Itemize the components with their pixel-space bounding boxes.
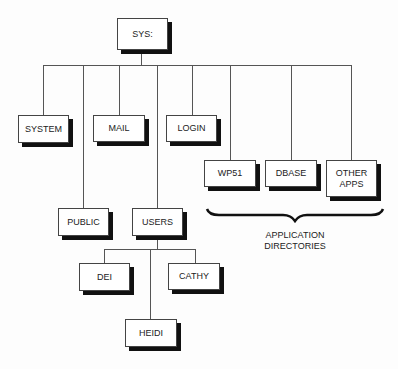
node-users: USERS: [132, 208, 183, 236]
node-login: LOGIN: [166, 115, 217, 142]
directory-tree-diagram: SYS: SYSTEM MAIL LOGIN WP51 DBASE OTHER …: [0, 0, 398, 369]
top-bus: [43, 65, 352, 66]
drop-dbase: [291, 65, 292, 161]
node-mail: MAIL: [93, 115, 145, 142]
root-connector: [141, 53, 142, 65]
node-heidi: HEIDI: [125, 319, 177, 347]
application-directories-label: APPLICATION DIRECTORIES: [240, 230, 350, 252]
drop-cathy: [195, 249, 196, 263]
node-system: SYSTEM: [18, 115, 69, 143]
application-directories-brace: [205, 207, 385, 223]
drop-other-apps: [351, 65, 352, 161]
node-other-apps: OTHER APPS: [326, 160, 377, 197]
drop-wp51: [230, 65, 231, 161]
node-dei: DEI: [79, 263, 130, 291]
node-public: PUBLIC: [58, 208, 109, 236]
node-cathy: CATHY: [168, 263, 220, 290]
drop-users: [157, 65, 158, 209]
node-wp51: WP51: [204, 160, 256, 187]
drop-login: [192, 65, 193, 116]
drop-system: [43, 65, 44, 116]
node-dbase: DBASE: [265, 160, 317, 187]
drop-heidi: [150, 249, 151, 319]
node-root-sys: SYS:: [117, 18, 168, 50]
users-connector: [157, 237, 158, 249]
drop-mail: [119, 65, 120, 116]
drop-dei: [104, 249, 105, 263]
drop-public: [83, 65, 84, 209]
